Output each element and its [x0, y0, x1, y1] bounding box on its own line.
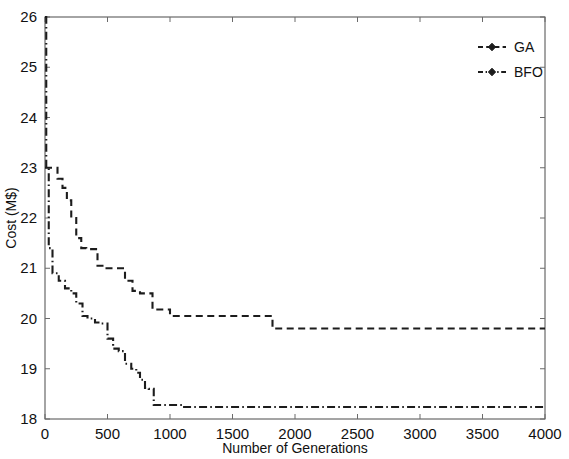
y-tick-label-19: 19: [20, 360, 37, 377]
y-tick-label-23: 23: [20, 159, 37, 176]
y-tick-label-25: 25: [20, 58, 37, 75]
y-tick-label-18: 18: [20, 410, 37, 427]
x-tick-label-500: 500: [95, 425, 120, 442]
y-tick-label-21: 21: [20, 259, 37, 276]
x-tick-label-3000: 3000: [403, 425, 436, 442]
convergence-chart-figure: 05001000150020002500300035004000 1819202…: [0, 0, 569, 459]
x-axis-title: Number of Generations: [222, 440, 368, 456]
series-line-bfo: [45, 17, 545, 407]
y-tick-label-20: 20: [20, 310, 37, 327]
x-tick-label-4000: 4000: [528, 425, 561, 442]
plot-frame: [45, 17, 545, 419]
chart-legend: GA BFO: [478, 39, 543, 80]
y-tick-label-22: 22: [20, 209, 37, 226]
y-tick-label-26: 26: [20, 8, 37, 25]
x-axis-ticks: [45, 17, 545, 419]
y-axis-title: Cost (M$): [3, 187, 19, 248]
legend-label-bfo: BFO: [514, 64, 543, 80]
chart-canvas: 05001000150020002500300035004000 1819202…: [0, 0, 569, 459]
legend-diamond-icon-bfo: [488, 68, 495, 76]
legend-diamond-icon-ga: [488, 43, 495, 51]
x-tick-label-1000: 1000: [153, 425, 186, 442]
y-axis-ticks: [45, 17, 545, 419]
x-tick-label-0: 0: [41, 425, 49, 442]
series-line-ga: [45, 168, 545, 329]
legend-label-ga: GA: [514, 39, 535, 55]
x-tick-label-3500: 3500: [466, 425, 499, 442]
y-axis-tick-labels: 181920212223242526: [20, 8, 37, 427]
y-tick-label-24: 24: [20, 109, 37, 126]
plot-area-border: [45, 17, 545, 419]
